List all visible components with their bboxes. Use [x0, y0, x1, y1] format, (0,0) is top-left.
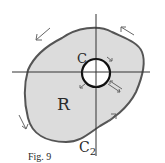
arrow-icon-bottom-left: [19, 115, 28, 129]
inner-curve-label: C: [77, 51, 87, 66]
figure-9-diagram: C R C2 Fig. 9: [0, 0, 165, 163]
figure-caption: Fig. 9: [28, 151, 51, 162]
cut-label-main: C: [79, 139, 90, 155]
arrow-icon-top-left: [36, 28, 50, 40]
cut-label-subscript: 2: [90, 146, 96, 157]
arrow-icon-top-right: [121, 27, 134, 35]
cut-label: C2: [79, 139, 96, 157]
region-label: R: [57, 94, 71, 114]
